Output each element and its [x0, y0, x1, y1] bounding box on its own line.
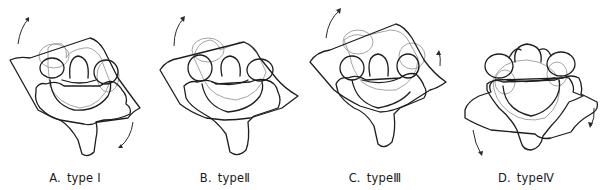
panel-caption: C.typeⅢ	[300, 171, 450, 185]
panel-type-3: C.typeⅢ	[300, 0, 450, 190]
panel-type-label: typeⅢ	[367, 171, 402, 185]
panel-caption: A.type Ⅰ	[0, 171, 150, 185]
panel-letter: B.	[200, 171, 212, 185]
rotation-arrow-icon	[18, 17, 29, 44]
vertebra-diagram-type-3	[300, 0, 450, 170]
vertebra-diagram-type-4	[451, 0, 601, 170]
panel-type-4: D.typeⅣ	[451, 0, 601, 190]
vertebra-diagram-type-2	[150, 0, 300, 170]
vertebra-diagram-type-1	[0, 0, 150, 170]
rotation-arrow-icon	[436, 50, 441, 66]
panel-letter: D.	[498, 171, 511, 185]
panel-type-label: type Ⅰ	[67, 171, 101, 185]
rotation-arrow-icon	[326, 8, 341, 38]
panel-letter: A.	[49, 171, 61, 185]
panel-type-label: typeⅡ	[218, 171, 250, 185]
panel-type-2: B.typeⅡ	[150, 0, 300, 190]
rotation-arrow-icon	[473, 130, 483, 156]
panel-caption: B.typeⅡ	[150, 171, 300, 185]
panel-letter: C.	[349, 171, 361, 185]
panel-caption: D.typeⅣ	[451, 171, 601, 185]
panel-type-label: typeⅣ	[517, 171, 554, 185]
panel-type-1: A.type Ⅰ	[0, 0, 150, 190]
rotation-arrow-icon	[174, 16, 185, 46]
rotation-arrow-icon	[588, 108, 594, 128]
rotation-arrow-icon	[118, 122, 133, 148]
